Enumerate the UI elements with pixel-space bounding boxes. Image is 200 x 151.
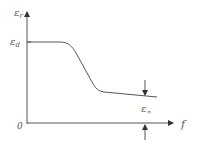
origin-label: 0 [17, 121, 23, 131]
eps-d-label: εd [10, 36, 20, 49]
permittivity-diagram: εr εd ε∞ f 0 [0, 0, 200, 151]
permittivity-curve [27, 42, 157, 97]
y-axis-label: εr [14, 7, 23, 20]
x-axis-label: f [180, 118, 187, 131]
eps-inf-label: ε∞ [141, 103, 151, 115]
